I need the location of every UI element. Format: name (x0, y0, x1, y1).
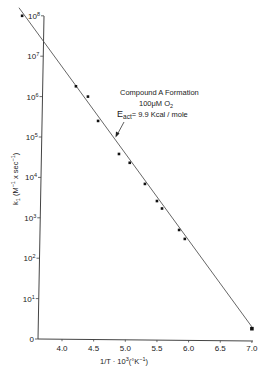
x-tick-label: 6.0 (183, 344, 195, 353)
arrowhead-icon (116, 132, 120, 138)
data-point (21, 15, 24, 18)
annotation-concentration: 100μM O2 (139, 99, 173, 109)
x-tick-label: 4.0 (56, 344, 68, 353)
data-point (87, 95, 90, 98)
annotation-title: Compound A Formation (120, 88, 199, 97)
y-tick-label: 103 (24, 213, 36, 223)
x-tick-label: 6.5 (215, 344, 227, 353)
data-point (118, 153, 121, 156)
y-tick-label: 0 (30, 335, 35, 344)
data-point (250, 327, 254, 331)
data-point (178, 229, 181, 232)
x-tick-label: 5.5 (151, 344, 163, 353)
y-axis-title: k1 (M−1 x sec−1) (10, 152, 21, 205)
data-point (97, 120, 100, 123)
x-axis (38, 339, 253, 341)
annotation: Compound A Formation 100μM O2 Eact= 9.9 … (116, 88, 199, 138)
data-point (184, 238, 187, 241)
y-tick-label: 105 (26, 132, 38, 142)
x-tick-label: 5.0 (120, 344, 132, 353)
y-tick-label: 101 (23, 294, 35, 304)
data-point (128, 161, 131, 164)
x-tick-label: 7.0 (246, 344, 258, 353)
annotation-activation-energy: Eact= 9.9 Kcal / mole (117, 109, 188, 120)
x-axis-title: 1/T · 103(°K−1) (100, 356, 149, 366)
data-point (161, 207, 164, 210)
y-tick-label: 102 (24, 253, 36, 263)
data-points (21, 15, 254, 331)
axes (38, 16, 253, 341)
y-tick-label: 107 (27, 51, 39, 61)
y-tick-label: 104 (25, 172, 37, 182)
y-tick-label: 106 (27, 92, 39, 102)
arrhenius-plot: 0101102103104105106107108 4.04.55.05.56.… (0, 0, 267, 374)
data-point (144, 183, 147, 186)
fit-line (19, 8, 252, 327)
y-tick-label: 108 (28, 11, 40, 21)
y-ticks: 0101102103104105106107108 (23, 11, 44, 344)
data-point (156, 200, 159, 203)
x-tick-label: 4.5 (88, 344, 100, 353)
x-ticks: 4.04.55.05.56.06.57.0 (56, 339, 258, 353)
data-point (75, 85, 78, 88)
